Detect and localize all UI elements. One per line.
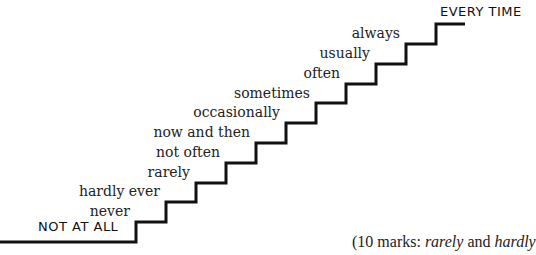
step-label-always: always: [352, 25, 400, 41]
step-label-usually: usually: [320, 45, 370, 61]
step-label-not-often: not often: [156, 144, 220, 160]
footnote-term-hardly-ever: hardly ever: [495, 233, 536, 250]
step-label-sometimes: sometimes: [234, 85, 310, 101]
footnote-term-rarely: rarely: [425, 233, 464, 250]
step-label-often: often: [303, 65, 340, 81]
step-label-hardly-ever: hardly ever: [79, 183, 160, 199]
footnote-prefix: (10 marks:: [352, 233, 425, 250]
staircase-line: [0, 0, 536, 255]
bottom-label: NOT AT ALL: [38, 219, 118, 235]
step-label-never: never: [90, 203, 130, 219]
step-label-now-and-then: now and then: [153, 124, 250, 140]
step-label-occasionally: occasionally: [193, 104, 280, 120]
footnote: (10 marks: rarely and hardly ever are ve…: [352, 233, 536, 251]
footnote-middle: and: [463, 233, 494, 250]
top-label: EVERY TIME: [440, 4, 522, 20]
staircase-diagram: NOT AT ALL EVERY TIME never hardly ever …: [0, 0, 536, 255]
step-label-rarely: rarely: [148, 164, 190, 180]
